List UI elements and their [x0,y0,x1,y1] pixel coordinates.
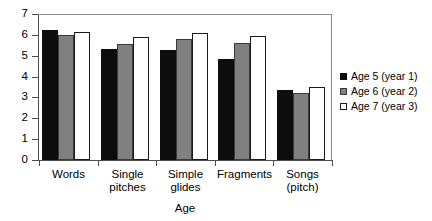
y-axis-tick-label: 0 [0,154,28,166]
x-axis-tick [332,161,333,166]
bar [309,87,325,160]
bar [133,37,149,160]
y-axis-tick-label: 7 [0,8,28,20]
y-axis-tick-labels: 01234567 [0,0,32,221]
y-axis-tick-label: 6 [0,29,28,41]
x-axis-category-label: Songs (pitch) [273,168,332,194]
chart-legend: Age 5 (year 1)Age 6 (year 2)Age 7 (year … [340,70,432,115]
x-axis-tick [39,161,40,166]
x-axis-category-label: Simple glides [156,168,215,194]
y-axis-tick-label: 3 [0,91,28,103]
bar [250,36,266,160]
bar [293,93,309,160]
x-axis-category-label: Fragments [215,168,274,181]
x-axis-tick [215,161,216,166]
bar [42,30,58,160]
legend-item: Age 6 (year 2) [340,85,432,98]
bar [101,49,117,160]
bar-group [42,14,90,160]
legend-label: Age 6 (year 2) [351,86,418,97]
bar-group [160,14,208,160]
legend-swatch-icon [340,103,347,110]
legend-swatch-icon [340,88,347,95]
x-axis-line [38,160,333,161]
y-axis-tick-label: 4 [0,71,28,83]
x-axis-tick [273,161,274,166]
bar [58,35,74,160]
legend-label: Age 5 (year 1) [351,71,418,82]
x-axis-tick [156,161,157,166]
bar [117,44,133,160]
bar-chart-figure: 01234567 WordsSingle pitchesSimple glide… [0,0,432,221]
plot-area [39,14,332,160]
bar-group [277,14,325,160]
bar [234,43,250,160]
legend-item: Age 7 (year 3) [340,100,432,113]
bar-group [101,14,149,160]
y-axis-tick-label: 1 [0,133,28,145]
bar [160,50,176,160]
legend-label: Age 7 (year 3) [351,101,418,112]
legend-swatch-icon [340,73,347,80]
x-axis-category-label: Words [39,168,98,181]
x-axis-category-label: Single pitches [98,168,157,194]
y-axis-tick-label: 5 [0,50,28,62]
bar-group [218,14,266,160]
bar [218,59,234,160]
bar [277,90,293,160]
bar [192,33,208,160]
bar [74,32,90,160]
y-axis-tick-label: 2 [0,112,28,124]
bar [176,39,192,160]
x-axis-title: Age [38,202,332,214]
legend-item: Age 5 (year 1) [340,70,432,83]
x-axis-tick [98,161,99,166]
